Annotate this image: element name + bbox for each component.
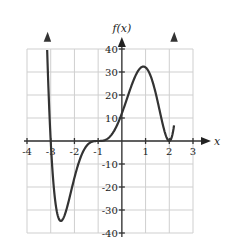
y-tick-label: 40 [105,44,118,55]
y-axis-arrow-icon [118,37,126,47]
y-tick-label: -10 [102,159,118,170]
x-tick-label: -2 [70,146,80,157]
function-graph: -4-3-2-112340302010-10-20-30-40 x f(x) [0,0,227,252]
x-tick-label: -4 [22,146,32,157]
y-axis-label: f(x) [111,22,131,35]
y-tick-label: 30 [105,67,118,78]
y-tick-label: 10 [105,113,118,124]
x-tick-label: -1 [93,146,103,157]
curve-arrow-right-icon [170,32,178,42]
y-tick-label: -20 [102,182,118,193]
y-tick-label: -30 [102,205,118,216]
x-axis-label: x [214,135,221,148]
y-tick-label: -40 [102,228,118,239]
x-tick-label: 2 [166,146,172,157]
x-axis-arrow-icon [201,137,211,145]
curve-arrow-left-icon [44,32,52,42]
x-tick-label: 1 [142,146,148,157]
x-tick-label: 3 [190,146,196,157]
y-tick-label: 20 [105,90,118,101]
